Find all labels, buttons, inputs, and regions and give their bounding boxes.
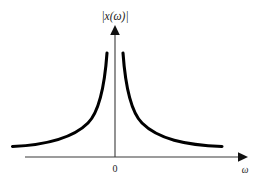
x-axis-arrowhead	[238, 152, 248, 162]
curve-negative-branch	[13, 53, 108, 147]
plot-canvas: |x(ω)| 0 ω	[0, 0, 254, 181]
x-axis-label: ω	[242, 165, 249, 175]
y-axis-arrowhead	[110, 25, 120, 35]
origin-label: 0	[113, 163, 118, 174]
curve-positive-branch	[123, 53, 222, 147]
magnitude-spectrum-figure: |x(ω)| 0 ω	[0, 0, 254, 181]
y-axis-label: |x(ω)|	[101, 10, 128, 23]
